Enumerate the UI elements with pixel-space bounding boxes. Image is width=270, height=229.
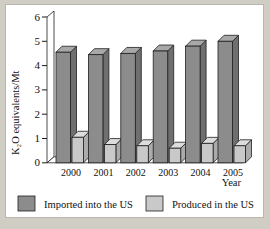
y-tick-label: 3 [35,83,41,95]
x-axis-title: Year [222,177,242,188]
bar-chart-svg: K₂O equivalents/Mt 6 5 4 3 2 1 0 [6,5,265,219]
bar-produced-2004[interactable] [202,137,220,162]
bar-produced-2005[interactable] [234,140,252,163]
legend-item-produced[interactable]: Produced in the US [146,196,254,211]
y-tick-label: 6 [35,11,41,23]
y-tick-label: 0 [35,156,41,168]
bar-imported-2003[interactable] [153,45,174,163]
y-axis-title: K₂O equivalents/Mt [10,70,21,155]
legend-swatch-produced [146,196,163,211]
axis-back-wall [47,11,54,163]
bar-produced-2003[interactable] [169,142,187,163]
bar-produced-2002[interactable] [137,140,155,163]
x-tick-label-2000: 2000 [61,167,81,178]
x-tick-label-2003: 2003 [158,167,178,178]
legend-label-produced: Produced in the US [172,199,254,210]
y-tick-label: 1 [35,132,41,144]
chart-legend: Imported into the US Produced in the US [18,196,254,211]
y-tick-label: 2 [35,108,41,120]
x-axis-labels: 200020012002200320042005 [61,167,243,178]
x-tick-label-2001: 2001 [93,167,113,178]
bars-group [56,35,252,163]
legend-item-imported[interactable]: Imported into the US [18,196,133,211]
y-tick-label: 5 [35,35,41,47]
chart-plot-area: K₂O equivalents/Mt 6 5 4 3 2 1 0 [6,5,265,219]
legend-swatch-imported [18,196,35,211]
bar-produced-2000[interactable] [72,131,90,163]
chart-frame: K₂O equivalents/Mt 6 5 4 3 2 1 0 [5,4,264,218]
legend-label-imported: Imported into the US [44,199,133,210]
y-tick-label: 4 [35,59,41,71]
bar-produced-2001[interactable] [104,139,122,163]
y-axis-ticks: 6 5 4 3 2 1 0 [35,11,48,169]
x-tick-label-2002: 2002 [126,167,146,178]
bar-imported-2005[interactable] [218,35,239,163]
x-tick-label-2004: 2004 [191,167,211,178]
